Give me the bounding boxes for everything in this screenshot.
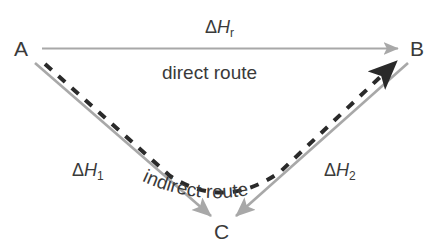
indirect-route-textpath: indirect route: [140, 165, 249, 202]
delta-h-1-subscript: 1: [97, 169, 104, 183]
delta-h-1-delta: Δ: [72, 160, 84, 180]
delta-h-2-delta: Δ: [324, 160, 336, 180]
direct-route-label: direct route: [162, 62, 257, 83]
delta-h-2-subscript: 2: [349, 169, 356, 183]
hess-law-diagram: A B C ΔHr direct route ΔH1 ΔH2 indirect …: [0, 0, 444, 249]
delta-h-r-symbol: H: [217, 17, 231, 37]
delta-h-2-symbol: H: [336, 160, 350, 180]
node-label-a: A: [14, 37, 28, 60]
indirect-route-label: indirect route: [140, 165, 249, 202]
delta-h-r-label: ΔHr: [205, 17, 234, 40]
node-label-c: C: [214, 220, 229, 243]
node-label-b: B: [410, 37, 424, 60]
delta-h-2-label: ΔH2: [324, 160, 356, 183]
delta-h-r-subscript: r: [230, 26, 234, 40]
delta-h-1-symbol: H: [84, 160, 98, 180]
delta-h-r-delta: Δ: [205, 17, 217, 37]
delta-h2-arrow: [236, 63, 408, 216]
diagram-canvas: A B C ΔHr direct route ΔH1 ΔH2 indirect …: [0, 0, 444, 249]
delta-h-1-label: ΔH1: [72, 160, 104, 183]
